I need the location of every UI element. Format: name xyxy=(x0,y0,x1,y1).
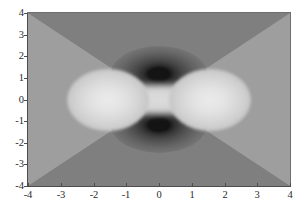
x-tick-label: 1 xyxy=(180,189,204,201)
x-tick-mark xyxy=(159,183,160,187)
y-tick-mark xyxy=(24,143,28,144)
x-tick-mark xyxy=(28,183,29,187)
y-tick-mark xyxy=(24,78,28,79)
y-tick-label: -2 xyxy=(2,137,24,149)
figure-canvas: -4-3-2-101234 43210-1-2-3-4 xyxy=(0,0,301,213)
x-tick-label: 2 xyxy=(213,189,237,201)
x-tick-label: -1 xyxy=(114,189,138,201)
y-tick-mark xyxy=(24,100,28,101)
y-tick-mark xyxy=(24,13,28,14)
y-tick-mark xyxy=(24,121,28,122)
x-tick-mark xyxy=(192,183,193,187)
x-tick-label: 4 xyxy=(278,189,301,201)
x-tick-label: -2 xyxy=(82,189,106,201)
y-tick-label: -4 xyxy=(2,180,24,192)
y-tick-mark xyxy=(24,35,28,36)
plot-area xyxy=(28,13,290,186)
x-tick-mark xyxy=(290,183,291,187)
y-tick-label: 2 xyxy=(2,50,24,62)
y-tick-label: 0 xyxy=(2,94,24,106)
y-tick-label: 1 xyxy=(2,72,24,84)
x-tick-mark xyxy=(257,183,258,187)
contour-field xyxy=(28,13,290,186)
x-tick-mark xyxy=(225,183,226,187)
bright-lobe-left xyxy=(67,69,149,131)
y-tick-label: -1 xyxy=(2,115,24,127)
axis-spine-right xyxy=(290,12,291,187)
x-tick-label: 3 xyxy=(245,189,269,201)
bright-lobe-right xyxy=(169,69,251,131)
y-tick-label: 3 xyxy=(2,29,24,41)
y-tick-label: -3 xyxy=(2,158,24,170)
x-tick-label: 0 xyxy=(147,189,171,201)
x-tick-label: -3 xyxy=(49,189,73,201)
x-tick-mark xyxy=(94,183,95,187)
y-tick-mark xyxy=(24,186,28,187)
y-tick-mark xyxy=(24,164,28,165)
x-tick-mark xyxy=(126,183,127,187)
x-tick-mark xyxy=(61,183,62,187)
y-tick-mark xyxy=(24,56,28,57)
y-tick-label: 4 xyxy=(2,7,24,19)
axis-spine-top xyxy=(27,12,291,13)
